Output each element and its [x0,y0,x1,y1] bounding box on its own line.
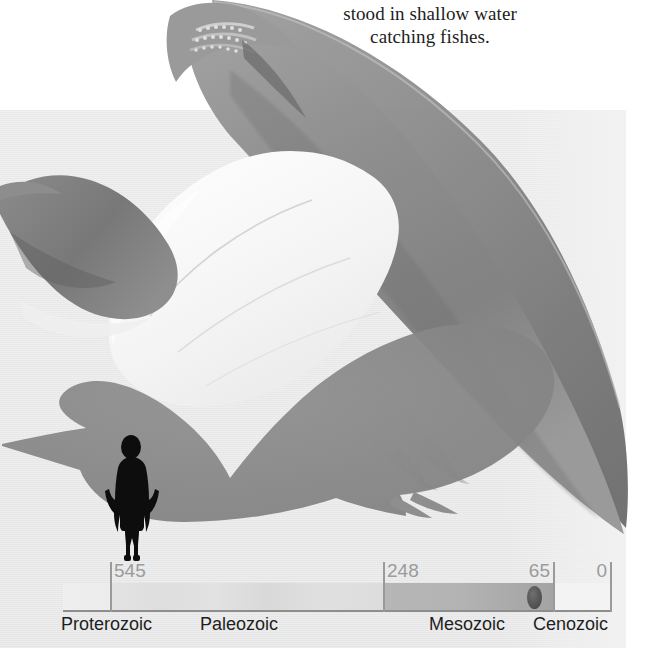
timeline-segment-paleozoic [110,583,383,610]
geologic-timeline: 545 248 65 0 Proterozoic Paleozoic Mesoz… [0,552,645,648]
figure-page: stood in shallow water catching fishes. [0,0,645,648]
timeline-tick-248 [383,562,385,612]
timeline-tick-545 [110,562,112,612]
timeline-segment-proterozoic [63,583,110,610]
timeline-label-65: 65 [523,560,550,582]
era-label-mesozoic: Mesozoic [429,614,505,635]
pterosaur-illustration [0,0,645,648]
era-label-cenozoic: Cenozoic [533,614,608,635]
timeline-label-248: 248 [387,560,419,582]
timeline-tick-0 [610,562,612,612]
era-label-proterozoic: Proterozoic [61,614,152,635]
era-position-marker [527,586,542,609]
timeline-segment-cenozoic [553,583,612,610]
timeline-label-545: 545 [114,560,146,582]
timeline-tick-65 [553,562,555,612]
era-label-paleozoic: Paleozoic [200,614,278,635]
timeline-label-0: 0 [585,560,607,582]
